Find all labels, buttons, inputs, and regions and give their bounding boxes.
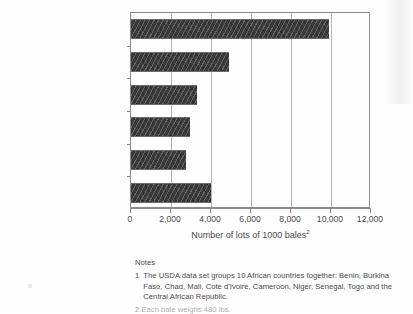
x-tick — [250, 208, 251, 213]
bar-row — [131, 144, 186, 177]
x-tick-label: 6,000 — [239, 214, 261, 224]
y-tick — [127, 78, 132, 79]
bar-brazil[interactable] — [131, 85, 197, 105]
x-tick — [290, 208, 291, 213]
note-item-1: 1 The USDA data set groups 10 African co… — [135, 271, 397, 302]
bar-india[interactable] — [131, 52, 229, 72]
bar-chart: US India Brazil Australia Uzbekistan Afr… — [0, 0, 413, 250]
bar-row — [131, 13, 329, 46]
bar-us[interactable] — [131, 19, 329, 39]
bar-row — [131, 111, 190, 144]
bar-australia[interactable] — [131, 117, 190, 137]
y-tick — [127, 176, 132, 177]
x-tick — [210, 208, 211, 213]
bar-african-countries[interactable] — [131, 183, 211, 203]
x-tick-label: 12,000 — [357, 214, 383, 224]
footnote-marker-2: 2 — [306, 229, 309, 235]
bar-row — [131, 176, 211, 209]
notes-block: Notes 1 The USDA data set groups 10 Afri… — [135, 258, 397, 314]
note-text: The USDA data set groups 10 African coun… — [143, 271, 397, 302]
scan-speck — [28, 284, 32, 288]
notes-heading: Notes — [135, 258, 397, 268]
y-tick — [127, 144, 132, 145]
note-item-2-clipped: 2 Each bale weighs 480 lbs. — [135, 305, 397, 314]
x-tick-label: 8,000 — [279, 214, 301, 224]
x-tick-label: 10,000 — [317, 214, 343, 224]
bar-row — [131, 78, 197, 111]
bar-series — [131, 13, 369, 207]
x-tick-label: 0 — [128, 214, 133, 224]
y-tick — [127, 46, 132, 47]
bar-row — [131, 46, 229, 79]
x-tick — [330, 208, 331, 213]
bar-uzbekistan[interactable] — [131, 150, 186, 170]
plot-area: US India Brazil Australia Uzbekistan Afr… — [130, 12, 370, 208]
y-tick — [127, 111, 132, 112]
x-tick — [170, 208, 171, 213]
x-axis-title: Number of lots of 1000 bales2 — [130, 229, 371, 240]
x-tick — [130, 208, 131, 213]
note-number: 1 — [135, 271, 139, 302]
x-tick — [370, 208, 371, 213]
x-tick-label: 2,000 — [159, 214, 181, 224]
x-tick-label: 4,000 — [199, 214, 221, 224]
